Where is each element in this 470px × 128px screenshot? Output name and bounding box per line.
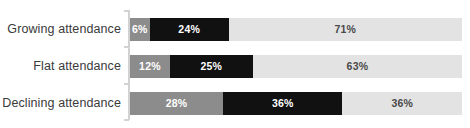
bar-segment-label: 24% <box>178 23 200 35</box>
category-label-declining-attendance: Declining attendance <box>0 91 121 115</box>
bar-segment-label: 12% <box>139 60 161 72</box>
bar-segment-1-growing: 6% <box>130 18 150 41</box>
chart-row-flat-attendance: Flat attendance 12% 25% 63% <box>0 54 470 78</box>
bar-segment-2-declining: 36% <box>223 92 343 115</box>
bar-segment-3-flat: 63% <box>253 55 462 78</box>
bar-segment-label: 6% <box>132 23 148 35</box>
bar-segment-label: 63% <box>347 60 369 72</box>
bar-segment-2-flat: 25% <box>170 55 253 78</box>
bar-segment-label: 25% <box>201 60 223 72</box>
stacked-bar-growing-attendance: 6% 24% 71% <box>130 18 462 41</box>
stacked-bar-declining-attendance: 28% 36% 36% <box>130 92 462 115</box>
category-label-growing-attendance: Growing attendance <box>0 17 121 41</box>
bar-segment-2-growing: 24% <box>150 18 229 41</box>
stacked-bar-flat-attendance: 12% 25% 63% <box>130 55 462 78</box>
stacked-bar-chart: Growing attendance 6% 24% 71% Flat atten… <box>0 0 470 128</box>
bar-segment-label: 36% <box>391 97 413 109</box>
category-label-flat-attendance: Flat attendance <box>0 54 121 78</box>
bar-segment-label: 71% <box>334 23 356 35</box>
chart-row-growing-attendance: Growing attendance 6% 24% 71% <box>0 17 470 41</box>
chart-row-declining-attendance: Declining attendance 28% 36% 36% <box>0 91 470 115</box>
bar-segment-1-flat: 12% <box>130 55 170 78</box>
bar-segment-3-growing: 71% <box>229 18 462 41</box>
bar-segment-3-declining: 36% <box>342 92 462 115</box>
chart-rows: Growing attendance 6% 24% 71% Flat atten… <box>0 0 470 128</box>
bar-segment-label: 36% <box>272 97 294 109</box>
bar-segment-label: 28% <box>166 97 188 109</box>
bar-segment-1-declining: 28% <box>130 92 223 115</box>
